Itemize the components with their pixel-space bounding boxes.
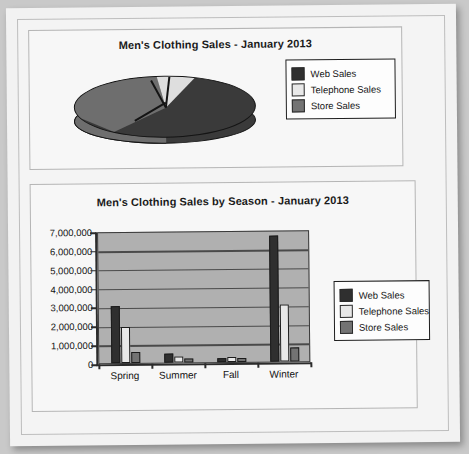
x-axis-tick-mark xyxy=(98,364,100,369)
y-axis-tick-label: 2,000,000 xyxy=(51,321,93,332)
legend-swatch-store-sales xyxy=(292,99,305,112)
y-axis-tick-mark xyxy=(91,308,97,310)
x-axis-category-label: Fall xyxy=(223,369,239,380)
x-axis-category-label: Winter xyxy=(269,368,298,379)
bar-group xyxy=(151,232,205,363)
legend-item-store-sales: Store Sales xyxy=(340,318,422,335)
legend-swatch-telephone-sales xyxy=(340,304,353,317)
bar-store-sales-winter xyxy=(290,347,299,361)
bar-group xyxy=(98,233,152,364)
x-axis-category-label: Spring xyxy=(110,370,139,381)
y-axis-tick-label: 3,000,000 xyxy=(50,302,92,313)
bar-chart-y-axis-labels: 7,000,0006,000,0005,000,0004,000,0003,00… xyxy=(37,232,93,365)
bar-chart-title: Men's Clothing Sales by Season - January… xyxy=(31,193,415,209)
y-axis-tick-label: 6,000,000 xyxy=(50,246,92,257)
bar-telephone-sales-spring xyxy=(121,327,130,363)
bar-web-sales-fall xyxy=(217,358,226,362)
legend-item-telephone-sales: Telephone Sales xyxy=(340,302,422,319)
bar-group xyxy=(257,231,311,362)
x-axis-tick-mark xyxy=(151,364,153,369)
legend-swatch-web-sales xyxy=(340,288,353,301)
pie-chart-panel: Men's Clothing Sales - January 2013 Web … xyxy=(28,26,403,170)
legend-label-web-sales: Web Sales xyxy=(359,289,405,300)
y-axis-tick-mark xyxy=(90,251,96,253)
bar-web-sales-summer xyxy=(164,354,173,363)
x-axis-tick-mark xyxy=(257,363,259,368)
bar-web-sales-winter xyxy=(269,235,279,361)
y-axis-tick-mark xyxy=(91,289,97,291)
bar-telephone-sales-summer xyxy=(174,356,183,362)
y-axis-tick-mark xyxy=(91,327,97,329)
bar-telephone-sales-fall xyxy=(227,357,236,362)
legend-label-store-sales: Store Sales xyxy=(311,99,360,110)
y-axis-tick-label: 1,000,000 xyxy=(51,340,93,351)
scanned-page: Men's Clothing Sales - January 2013 Web … xyxy=(6,4,460,446)
y-axis-tick-mark xyxy=(91,345,97,347)
y-axis-tick-label: 7,000,000 xyxy=(50,227,92,238)
legend-label-store-sales: Store Sales xyxy=(359,321,408,332)
y-axis-tick-label: 5,000,000 xyxy=(50,265,92,276)
x-axis-tick-mark xyxy=(310,362,312,367)
y-axis-tick-mark xyxy=(91,364,97,366)
pie-chart-title: Men's Clothing Sales - January 2013 xyxy=(29,36,401,52)
pie-chart-graphic xyxy=(73,67,260,161)
bar-store-sales-summer xyxy=(184,359,193,363)
bar-telephone-sales-winter xyxy=(280,304,290,362)
bar-web-sales-spring xyxy=(111,307,121,364)
legend-item-telephone-sales: Telephone Sales xyxy=(292,81,388,98)
x-axis-tick-mark xyxy=(204,363,206,368)
legend-item-web-sales: Web Sales xyxy=(291,65,387,82)
bar-store-sales-fall xyxy=(237,358,246,362)
bar-store-sales-spring xyxy=(131,352,140,363)
y-axis-tick-mark xyxy=(90,232,96,234)
bar-chart-plot-area xyxy=(97,230,310,364)
y-axis-tick-mark xyxy=(90,270,96,272)
y-axis-tick-label: 4,000,000 xyxy=(50,283,92,294)
x-axis-category-label: Summer xyxy=(159,369,197,380)
legend-label-telephone-sales: Telephone Sales xyxy=(359,305,429,317)
legend-swatch-web-sales xyxy=(291,67,304,80)
bar-chart-legend: Web Sales Telephone Sales Store Sales xyxy=(334,280,431,341)
pie-chart-legend: Web Sales Telephone Sales Store Sales xyxy=(285,58,396,119)
legend-item-store-sales: Store Sales xyxy=(292,97,388,114)
bar-chart-panel: Men's Clothing Sales by Season - January… xyxy=(30,180,418,412)
legend-swatch-store-sales xyxy=(340,320,353,333)
legend-label-telephone-sales: Telephone Sales xyxy=(311,83,381,95)
bar-group xyxy=(204,232,258,363)
legend-swatch-telephone-sales xyxy=(292,83,305,96)
legend-item-web-sales: Web Sales xyxy=(340,286,422,303)
legend-label-web-sales: Web Sales xyxy=(310,67,356,78)
